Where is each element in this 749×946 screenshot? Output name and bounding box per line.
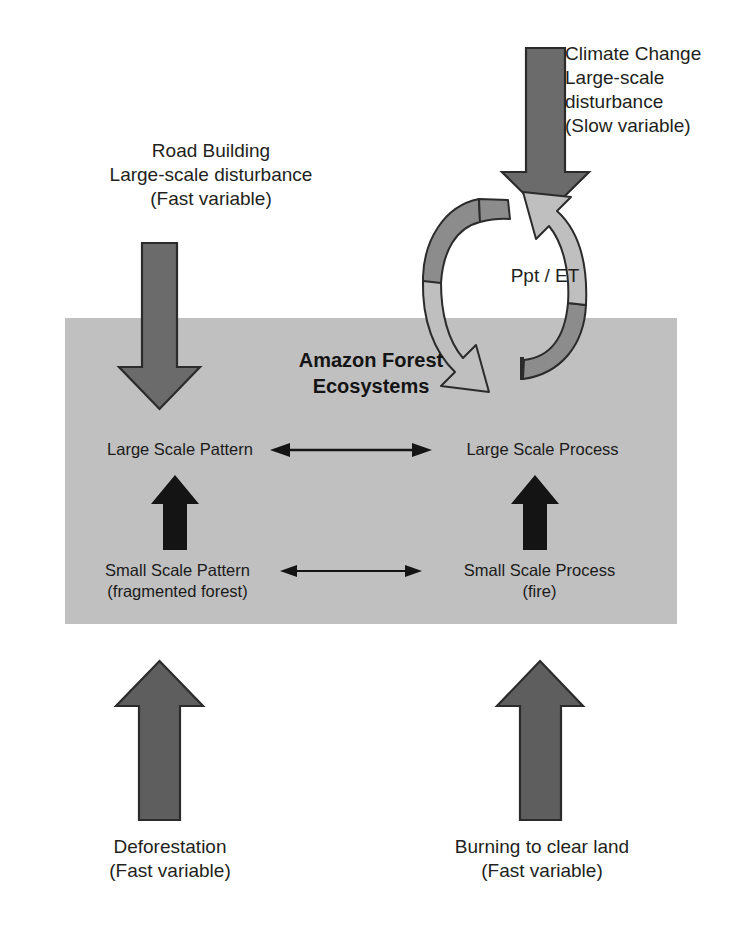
label-burning-to-clear-land: Burning to clear land (Fast variable): [410, 835, 674, 883]
node-small-scale-process: Small Scale Process (fire): [432, 560, 647, 602]
node-small-scale-pattern: Small Scale Pattern (fragmented forest): [70, 560, 285, 602]
label-ppt-et: Ppt / ET: [455, 264, 635, 288]
deforestation-arrow-icon: [116, 661, 203, 820]
diagram-canvas: Amazon Forest Ecosystems Large Scale Pat…: [0, 0, 749, 946]
node-large-scale-process: Large Scale Process: [435, 439, 650, 460]
burning-arrow-icon: [497, 661, 583, 820]
node-large-scale-pattern: Large Scale Pattern: [75, 439, 285, 460]
label-road-building: Road Building Large-scale disturbance (F…: [78, 139, 344, 211]
page-title: Amazon Forest Ecosystems: [65, 347, 677, 399]
label-deforestation: Deforestation (Fast variable): [45, 835, 295, 883]
label-climate-change: Climate Change Large-scale disturbance (…: [565, 42, 701, 138]
